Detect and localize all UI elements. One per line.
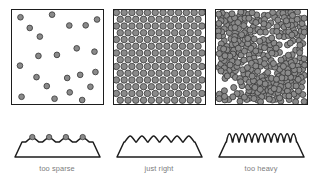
grain-density-figure: too sparse just right too heavy [0,0,317,183]
profile-shape-sparse [10,120,105,160]
density-box-too-heavy [215,9,308,105]
surface-profile-too-heavy [214,120,309,160]
grain-scatter-optimal [114,10,205,104]
density-box-too-sparse [11,9,104,105]
surface-profile-just-right [112,120,207,160]
profile-shape-optimal [112,120,207,160]
caption-too-sparse: too sparse [6,164,108,174]
grain-scatter-overcrowded [216,10,307,104]
caption-just-right: just right [108,164,210,174]
caption-too-heavy: too heavy [210,164,312,174]
grain-scatter-sparse [12,10,103,104]
panel-too-heavy: too heavy [210,0,312,183]
surface-profile-too-sparse [10,120,105,160]
profile-shape-overcrowded [214,120,309,160]
density-box-just-right [113,9,206,105]
panel-too-sparse: too sparse [6,0,108,183]
panel-just-right: just right [108,0,210,183]
